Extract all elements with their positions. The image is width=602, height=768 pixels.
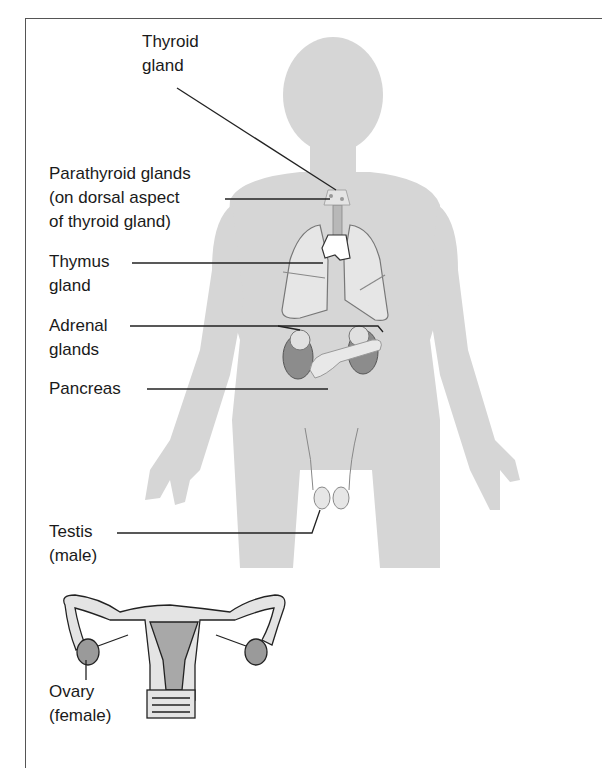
label-pancreas: Pancreas	[49, 377, 121, 401]
label-thymus-gland: Thymus gland	[49, 250, 109, 298]
label-testis-male: Testis (male)	[49, 520, 97, 568]
thymus-shape	[322, 235, 350, 260]
body-silhouette	[145, 37, 520, 568]
label-ovary-female: Ovary (female)	[49, 680, 111, 728]
label-adrenal-glands: Adrenal glands	[49, 314, 108, 362]
label-thyroid-gland: Thyroid gland	[142, 30, 199, 78]
label-parathyroid-glands: Parathyroid glands (on dorsal aspect of …	[49, 162, 191, 234]
